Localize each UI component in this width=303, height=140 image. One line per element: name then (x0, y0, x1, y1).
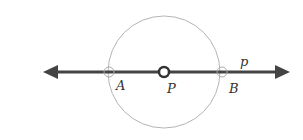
label-p-point: P (166, 81, 176, 96)
label-a: A (115, 78, 125, 93)
arrowhead-right-icon (275, 65, 290, 79)
label-b: B (228, 81, 239, 96)
label-line-p: p (240, 54, 249, 69)
point-p-marker (159, 67, 169, 77)
arrowhead-left-icon (43, 65, 58, 79)
geometry-diagram: A P B p (0, 0, 303, 140)
